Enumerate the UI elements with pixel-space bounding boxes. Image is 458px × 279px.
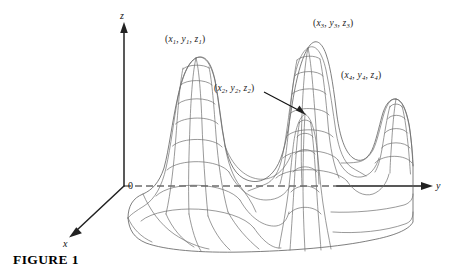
x-axis (77, 186, 124, 230)
peak-4-meridian-1 (390, 99, 396, 173)
point-label-2: (x2, y2, z2) (214, 83, 254, 93)
peak-3-group (248, 47, 366, 191)
valley-3-4-mid (347, 174, 389, 195)
label-2-leader-line (264, 92, 302, 112)
surface-back-silhouette (128, 42, 413, 218)
peak-2-right-profile (305, 114, 331, 249)
peak-1-ring-4 (176, 118, 219, 124)
x-axis-label: x (63, 238, 67, 249)
right-plateau-contour-2 (333, 212, 413, 233)
label-2-leader-arrowhead (296, 106, 306, 116)
peak-1-ring-7 (156, 185, 240, 200)
peak-4-ring-2 (388, 115, 406, 119)
peak-1-right-profile (196, 57, 256, 212)
point-label-4: (x4, y4, z4) (341, 70, 381, 80)
peak-3-ring-3 (292, 89, 326, 94)
peak-2-ring-2 (297, 133, 313, 137)
peak-3-ring-6 (283, 151, 338, 160)
peak-2-ring-1 (299, 120, 311, 123)
figure-caption: FIGURE 1 (13, 252, 79, 268)
origin-label: 0 (128, 180, 133, 191)
peak-4-ring-4 (382, 143, 411, 148)
front-base-sweep-1 (143, 194, 209, 249)
peak-4-meridian-3 (402, 106, 411, 174)
z-axis-label: z (120, 10, 124, 21)
peak-3-right-profile (308, 47, 366, 176)
figure-container: (x1, y1, z1) (x2, y2, z2) (x3, y3, z3) (… (0, 0, 458, 279)
point-label-1: (x1, y1, z1) (165, 34, 205, 44)
x-axis-arrowhead (69, 227, 82, 237)
label-2-leader-group (264, 92, 306, 115)
y-axis-arrowhead (421, 182, 433, 190)
peak-3-ring-5 (287, 130, 333, 137)
peak-4-left-profile (341, 99, 396, 163)
surface-plot-svg (0, 0, 458, 279)
peak-1-ring-2 (181, 81, 213, 86)
front-base-sweep-4 (208, 216, 230, 250)
peak-2-meridian-1 (303, 114, 305, 251)
front-base-sweep-3 (189, 214, 201, 251)
right-plateau-contour-1 (331, 194, 413, 212)
peak-1-meridian-1 (189, 58, 196, 214)
point-label-3: (x3, y3, z3) (313, 18, 353, 28)
peak-1-meridian-3 (166, 68, 183, 214)
peak-3-ring-4 (290, 108, 330, 115)
peak-3-meridian-4 (320, 59, 339, 178)
peak-4-ring-1 (390, 104, 402, 107)
peak-1-ring-5 (173, 139, 223, 147)
valley-3-4-upper (338, 158, 379, 177)
peak-2-ring-6 (289, 207, 321, 214)
peak-3-meridian-2 (308, 48, 319, 184)
y-axis-label: y (436, 180, 440, 191)
peak-2-ring-3 (295, 150, 315, 155)
peak-2-ring-5 (291, 186, 319, 192)
peak-4-ring-3 (385, 129, 408, 134)
z-axis-arrowhead (120, 22, 128, 33)
surface-valley-lines (128, 146, 413, 251)
valley-1-3-base (254, 228, 281, 248)
peak-4-right-profile (396, 99, 413, 166)
peak-1-ring-3 (178, 99, 215, 104)
peak-3-left-profile (248, 48, 308, 191)
